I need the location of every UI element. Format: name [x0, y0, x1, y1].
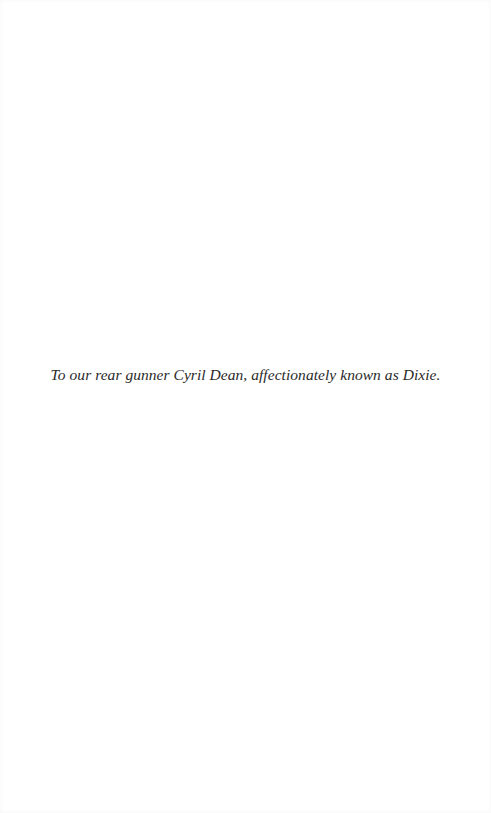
document-page: To our rear gunner Cyril Dean, affection… [0, 0, 491, 813]
dedication-text: To our rear gunner Cyril Dean, affection… [0, 366, 491, 384]
